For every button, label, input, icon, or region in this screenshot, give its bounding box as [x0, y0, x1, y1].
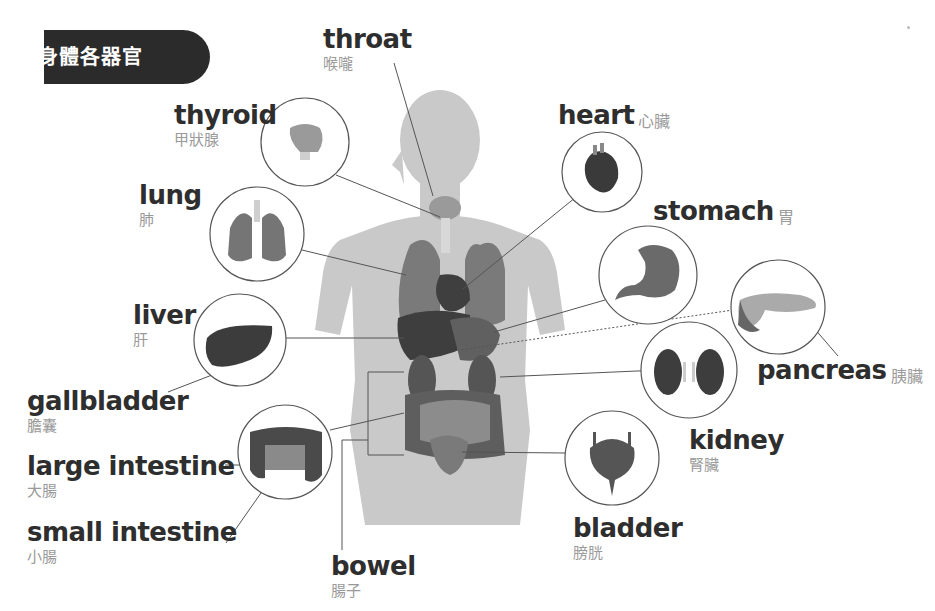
label-gallbladder: gallbladder 膽囊: [27, 386, 188, 436]
label-kidney-zh: 腎臟: [689, 455, 784, 475]
label-stomach-en: stomach: [653, 196, 774, 226]
label-bowel-zh: 腸子: [331, 581, 416, 601]
label-bladder-zh: 膀胱: [573, 543, 682, 563]
label-lung-en: lung: [139, 180, 202, 210]
label-gallbladder-zh: 膽囊: [27, 416, 188, 436]
label-liver-en: liver: [133, 300, 196, 330]
label-heart-en: heart: [558, 100, 634, 130]
label-thyroid-zh: 甲狀腺: [174, 130, 277, 150]
label-bladder: bladder 膀胱: [573, 513, 682, 563]
label-small-intestine-zh: 小腸: [27, 547, 237, 567]
label-pancreas-en: pancreas: [757, 355, 887, 385]
label-thyroid: thyroid 甲狀腺: [174, 100, 277, 150]
label-large-intestine: large intestine 大腸: [27, 451, 235, 501]
label-thyroid-en: thyroid: [174, 100, 277, 130]
label-large-intestine-zh: 大腸: [27, 481, 235, 501]
label-small-intestine: small intestine 小腸: [27, 517, 237, 567]
label-kidney-en: kidney: [689, 425, 784, 455]
label-pancreas-zh: 胰臟: [891, 367, 923, 386]
label-throat-en: throat: [323, 24, 412, 54]
label-liver-zh: 肝: [133, 330, 196, 350]
label-heart: heart心臟: [558, 100, 670, 132]
label-pancreas: pancreas胰臟: [757, 355, 923, 387]
label-bowel: bowel 腸子: [331, 551, 416, 601]
label-kidney: kidney 腎臟: [689, 425, 784, 475]
label-bladder-en: bladder: [573, 513, 682, 543]
label-heart-zh: 心臟: [638, 112, 670, 131]
label-bowel-en: bowel: [331, 551, 416, 581]
label-gallbladder-en: gallbladder: [27, 386, 188, 416]
decorative-dot: [907, 26, 910, 29]
label-lung-zh: 肺: [139, 210, 202, 230]
label-liver: liver 肝: [133, 300, 196, 350]
label-lung: lung 肺: [139, 180, 202, 230]
label-throat: throat 喉嚨: [323, 24, 412, 74]
label-small-intestine-en: small intestine: [27, 517, 237, 547]
label-stomach: stomach胃: [653, 196, 794, 228]
label-stomach-zh: 胃: [778, 208, 794, 227]
label-large-intestine-en: large intestine: [27, 451, 235, 481]
label-throat-zh: 喉嚨: [323, 54, 412, 74]
